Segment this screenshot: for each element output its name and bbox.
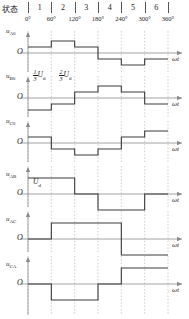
series-label-subscript: AB (10, 174, 17, 179)
time-axis-label: ωt (172, 100, 179, 108)
state-cell-1: 1 (30, 3, 50, 12)
annotation-one-third-ud: 13Ud (28, 69, 50, 82)
origin-label: O (17, 233, 23, 242)
ud-subscript-2: d (69, 76, 72, 81)
series-label-subscript: C0 (10, 121, 16, 126)
series-label-u-a0: uA0 (6, 27, 16, 36)
plot-u-ab: uABOωt (0, 166, 189, 211)
y-axis-arrow (26, 122, 30, 127)
waveform-figure: 状态 123456 0°60°120°180°240°300°360° uA0O… (0, 0, 189, 319)
state-separator (75, 2, 76, 13)
state-cell-6: 6 (146, 3, 166, 12)
series-label-subscript: AC (10, 219, 17, 224)
plot-u-ca: uCAOωt (0, 256, 189, 319)
series-label-u-c0: uC0 (6, 117, 15, 126)
time-axis-label: ωt (172, 196, 179, 204)
angle-tick-label: 180° (86, 15, 110, 22)
state-cell-5: 5 (123, 3, 143, 12)
series-label-subscript: A0 (10, 31, 16, 36)
ud-subscript-3: d (38, 183, 41, 188)
y-axis-arrow (26, 32, 30, 37)
angle-tick-label: 120° (63, 15, 87, 22)
series-label-u-ca: uCA (6, 260, 16, 269)
angle-tick-label: 60° (39, 15, 63, 22)
series-label-subscript: CA (10, 264, 17, 269)
time-axis-label: ωt (172, 286, 179, 294)
plot-u-ac: uACOωt (0, 211, 189, 256)
annotation-two-third-ud: 23Ud (53, 69, 77, 82)
series-label-u-b0: uB0 (6, 72, 15, 81)
ud-subscript-1: d (43, 76, 46, 81)
angle-tick-label: 360° (156, 15, 180, 22)
state-separator (145, 2, 146, 13)
state-header-label: 状态 (2, 3, 18, 14)
series-label-u-ac: uAC (6, 215, 16, 224)
annotation-ud: Ud (33, 177, 53, 188)
state-cell-2: 2 (53, 3, 73, 12)
state-separator (28, 2, 29, 13)
state-header: 状态 123456 0°60°120°180°240°300°360° (0, 0, 189, 28)
y-axis-arrow (26, 257, 30, 262)
state-separator (51, 2, 52, 13)
origin-label: O (17, 278, 23, 287)
series-label-u-ab: uAB (6, 170, 16, 179)
state-cell-3: 3 (76, 3, 96, 12)
time-axis-label: ωt (172, 241, 179, 249)
series-label-subscript: B0 (10, 76, 16, 81)
state-separator (121, 2, 122, 13)
state-cell-4: 4 (100, 3, 120, 12)
y-axis-arrow (26, 212, 30, 217)
origin-label: O (17, 137, 23, 146)
state-separator (98, 2, 99, 13)
origin-label: O (17, 92, 23, 101)
time-axis-label: ωt (172, 145, 179, 153)
time-axis-label: ωt (172, 55, 179, 63)
angle-tick-label: 0° (16, 15, 40, 22)
plot-u-c0: uC0Oωt (0, 121, 189, 166)
origin-label: O (17, 188, 23, 197)
angle-tick-label: 300° (133, 15, 157, 22)
plot-u-b0: uB0Oωt (0, 76, 189, 121)
state-separator (168, 2, 169, 13)
angle-tick-label: 240° (109, 15, 133, 22)
y-axis-arrow (26, 167, 30, 172)
origin-label: O (17, 47, 23, 56)
